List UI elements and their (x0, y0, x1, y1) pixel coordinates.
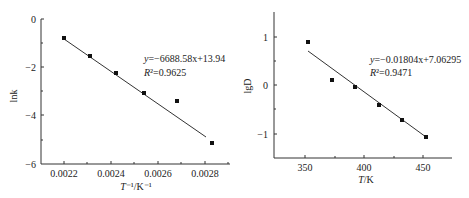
figure: 0 −2 −4 −6 0.0022 0.0024 0.0026 0.0028 l… (0, 0, 469, 198)
right-ytick-label: −1 (257, 129, 268, 140)
left-ytick-label: −4 (25, 110, 36, 121)
left-ytick-label: −2 (25, 62, 36, 73)
left-xtick-label: 0.0022 (50, 168, 78, 179)
left-r2: R²=0.9625 (143, 67, 186, 78)
right-ytick-label: 1 (263, 32, 268, 43)
left-y-axis-label: lnk (8, 90, 19, 103)
left-xtick-label: 0.0028 (191, 168, 219, 179)
right-r2: R²=0.9471 (369, 67, 412, 78)
right-chart: 1 0 −1 350 400 450 lgD T/K y=−0.0180 (242, 12, 461, 185)
left-ytick-label: −6 (25, 159, 36, 170)
left-chart: 0 −2 −4 −6 0.0022 0.0024 0.0026 0.0028 l… (8, 14, 230, 192)
left-equation: y=−6688.58x+13.94 (143, 53, 225, 64)
left-ytick-label: 0 (31, 14, 36, 25)
right-equation: y=−0.01804x+7.06295 (369, 54, 461, 65)
right-xtick-label: 450 (416, 162, 431, 173)
right-xtick-label: 350 (298, 162, 313, 173)
left-xtick-label: 0.0026 (144, 168, 172, 179)
left-x-axis-label: T⁻¹/K⁻¹ (120, 181, 152, 192)
left-xtick-label: 0.0024 (97, 168, 125, 179)
right-x-axis-label: T/K (358, 174, 374, 185)
right-xtick-label: 400 (357, 162, 372, 173)
right-y-axis-label: lgD (242, 79, 253, 94)
right-ytick-label: 0 (263, 80, 268, 91)
